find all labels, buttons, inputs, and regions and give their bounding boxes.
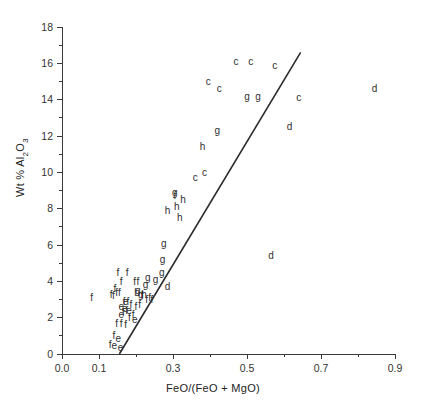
data-point-g: g xyxy=(159,267,165,278)
y-tick-label: 8 xyxy=(47,202,53,214)
data-point-c: c xyxy=(296,92,301,103)
data-point-f: f xyxy=(112,290,115,301)
scatter-chart: 0246810121416180.00.10.30.50.70.9 cccccc… xyxy=(0,0,426,411)
data-point-f: f xyxy=(173,190,176,201)
data-point-f: f xyxy=(124,319,127,330)
data-point-c: c xyxy=(272,60,277,71)
data-point-e: e xyxy=(118,342,124,353)
y-tick-label: 2 xyxy=(47,311,53,323)
data-point-g: g xyxy=(161,238,167,249)
x-axis-title: FeO/(FeO + MgO) xyxy=(0,382,426,394)
data-point-c: c xyxy=(202,167,207,178)
axis-lines xyxy=(62,27,395,354)
data-point-f: f xyxy=(126,267,129,278)
y-tick-label: 18 xyxy=(41,21,53,33)
y-tick-label: 14 xyxy=(41,93,53,105)
data-points: ccccccccddddgggggggggggghhhhhhhfffffffff… xyxy=(90,56,377,353)
data-point-c: c xyxy=(233,56,238,67)
x-tick-label: 0.0 xyxy=(55,362,70,374)
data-point-g: g xyxy=(244,91,250,102)
data-point-f: f xyxy=(120,276,123,287)
data-point-e: e xyxy=(118,309,124,320)
x-tick-label: 0.9 xyxy=(388,362,403,374)
trend-line-segment xyxy=(119,52,300,354)
y-axis-title: Wt % Al2O3 xyxy=(14,88,29,248)
data-point-f: f xyxy=(90,292,93,303)
data-point-e: e xyxy=(111,340,117,351)
data-point-h: h xyxy=(200,141,206,152)
data-point-d: d xyxy=(372,83,378,94)
y-tick-label: 6 xyxy=(47,239,53,251)
plot-area: 0246810121416180.00.10.30.50.70.9 cccccc… xyxy=(0,0,426,411)
x-tick-label: 0.5 xyxy=(240,362,255,374)
x-tick-label: 0.1 xyxy=(92,362,107,374)
x-tick-label: 0.7 xyxy=(314,362,329,374)
x-tick-label: 0.3 xyxy=(166,362,181,374)
data-point-h: h xyxy=(134,287,140,298)
data-point-c: c xyxy=(248,56,253,67)
data-point-d: d xyxy=(287,121,293,132)
y-tick-label: 4 xyxy=(47,275,53,287)
data-point-g: g xyxy=(215,125,221,136)
data-point-d: d xyxy=(165,281,171,292)
y-tick-label: 12 xyxy=(41,130,53,142)
data-point-h: h xyxy=(180,194,186,205)
data-point-g: g xyxy=(160,254,166,265)
data-point-g: g xyxy=(255,91,261,102)
data-point-f: f xyxy=(135,301,138,312)
data-point-c: c xyxy=(193,172,198,183)
data-point-f: f xyxy=(136,276,139,287)
data-point-h: h xyxy=(165,205,171,216)
y-tick-label: 10 xyxy=(41,166,53,178)
data-point-e: e xyxy=(132,314,138,325)
data-point-f: f xyxy=(118,287,121,298)
trend-line xyxy=(119,52,300,354)
data-point-g: g xyxy=(153,274,159,285)
data-point-f: f xyxy=(145,294,148,305)
data-point-f: f xyxy=(138,299,141,310)
data-point-h: h xyxy=(174,201,180,212)
axes xyxy=(57,27,395,359)
data-point-h: h xyxy=(177,212,183,223)
data-point-d: d xyxy=(268,250,274,261)
y-tick-label: 0 xyxy=(47,348,53,360)
data-point-e: e xyxy=(123,296,129,307)
data-point-c: c xyxy=(206,76,211,87)
data-point-c: c xyxy=(217,83,222,94)
data-point-f: f xyxy=(151,294,154,305)
tick-labels: 0246810121416180.00.10.30.50.70.9 xyxy=(41,21,402,375)
y-tick-label: 16 xyxy=(41,57,53,69)
